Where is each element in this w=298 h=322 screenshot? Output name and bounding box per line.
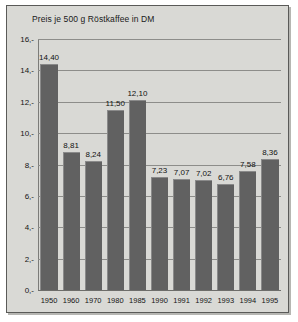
bar[interactable] (40, 64, 57, 290)
y-axis-tick-label: 14,- (20, 66, 34, 75)
bar[interactable] (85, 161, 102, 290)
y-axis-tick-label: 16,- (20, 35, 34, 44)
bar[interactable] (173, 179, 190, 290)
bar-slot: 11,50 (107, 39, 124, 290)
bar[interactable] (217, 184, 234, 290)
bar[interactable] (239, 171, 256, 290)
bar-slot: 7,58 (239, 39, 256, 290)
x-axis-tick-label: 1993 (215, 296, 237, 305)
bar-value-label: 12,10 (127, 89, 147, 98)
bar[interactable] (261, 159, 278, 290)
x-axis-tick-label: 1970 (82, 296, 104, 305)
bar-value-label: 14,40 (39, 53, 59, 62)
bar-value-label: 8,81 (63, 141, 79, 150)
bar-slot: 14,40 (40, 39, 57, 290)
bar[interactable] (151, 177, 168, 290)
bar[interactable] (63, 152, 80, 290)
bar-slot: 12,10 (129, 39, 146, 290)
bar[interactable] (107, 110, 124, 290)
y-axis-tick-label: 6,- (25, 191, 34, 200)
x-axis-tick-label: 1994 (237, 296, 259, 305)
bar[interactable] (129, 100, 146, 290)
bar-value-label: 7,23 (152, 166, 168, 175)
y-axis-tick-label: 10,- (20, 129, 34, 138)
bar-slot: 7,02 (195, 39, 212, 290)
bar-value-label: 7,58 (240, 160, 256, 169)
y-axis-tick-label: 2,- (25, 254, 34, 263)
bar-slot: 7,07 (173, 39, 190, 290)
bar-slot: 6,76 (217, 39, 234, 290)
bar-value-label: 7,02 (196, 169, 212, 178)
bar-value-label: 11,50 (106, 99, 125, 108)
x-axis: 1950196019701980198519901991199219931994… (38, 296, 281, 310)
x-axis-tick-label: 1960 (60, 296, 82, 305)
x-axis-tick-label: 1980 (104, 296, 126, 305)
bar[interactable] (195, 180, 212, 290)
bar-value-label: 8,36 (262, 148, 278, 157)
plot-area: 16,-14,-12,-10,-8,-6,-4,-2,-0,-14,408,81… (38, 39, 281, 290)
x-axis-tick-label: 1985 (126, 296, 148, 305)
x-axis-tick-label: 1991 (171, 296, 193, 305)
bar-slot: 8,81 (63, 39, 80, 290)
x-axis-tick-label: 1995 (259, 296, 281, 305)
bar-slot: 8,24 (85, 39, 102, 290)
bar-slot: 7,23 (151, 39, 168, 290)
bar-slot: 8,36 (261, 39, 278, 290)
y-axis-tick-label: 12,- (20, 97, 34, 106)
x-axis-tick-label: 1990 (148, 296, 170, 305)
chart-figure: Preis je 500 g Röstkaffee in DM 16,-14,-… (0, 0, 298, 322)
bar-value-label: 6,76 (218, 173, 234, 182)
chart-title: Preis je 500 g Röstkaffee in DM (32, 14, 154, 24)
y-axis-tick-label: 4,- (25, 223, 34, 232)
bar-value-label: 7,07 (174, 168, 190, 177)
x-axis-tick-label: 1950 (38, 296, 60, 305)
x-axis-tick-label: 1992 (193, 296, 215, 305)
chart-plot-background: Preis je 500 g Röstkaffee in DM 16,-14,-… (7, 6, 288, 312)
y-axis-tick-label: 0,- (25, 286, 34, 295)
chart-frame: Preis je 500 g Röstkaffee in DM 16,-14,-… (6, 5, 289, 313)
gridline (38, 290, 281, 291)
y-axis-tick-label: 8,- (25, 160, 34, 169)
bar-value-label: 8,24 (85, 150, 101, 159)
